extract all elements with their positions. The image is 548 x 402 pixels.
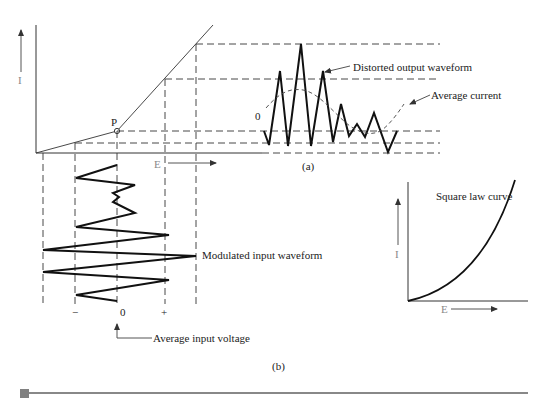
leader-arrow-icon — [325, 66, 350, 72]
plus-label: + — [161, 306, 167, 318]
panel-a: I P E 0 Distorted output waveform Averag… — [18, 25, 501, 304]
leader-arrow-icon — [410, 95, 430, 104]
characteristic-curve — [36, 25, 213, 153]
average-current-label: Average current — [431, 89, 501, 101]
y-axis-label: I — [18, 74, 22, 86]
square-law-inset: I Square law curve E — [395, 180, 528, 315]
modulated-input-waveform — [43, 165, 196, 301]
figure-canvas: I P E 0 Distorted output waveform Averag… — [0, 0, 548, 402]
x-axis-label: E — [154, 158, 161, 170]
footer-square — [20, 389, 29, 398]
panel-b-caption: (b) — [272, 360, 285, 373]
average-input-label: Average input voltage — [153, 332, 250, 344]
average-input-arrow-icon — [117, 324, 152, 338]
panel-b: Modulated input waveform − 0 + Average i… — [43, 165, 323, 373]
square-law-title: Square law curve — [436, 190, 512, 202]
minus-label: − — [72, 306, 78, 318]
zero-label: 0 — [120, 306, 126, 318]
panel-a-caption: (a) — [302, 160, 315, 173]
inset-y-axis-label: I — [395, 248, 399, 260]
input-waveform-label: Modulated input waveform — [202, 249, 323, 261]
inset-x-axis-label: E — [441, 303, 448, 315]
operating-point-label: P — [111, 116, 117, 128]
output-waveform-label: Distorted output waveform — [353, 61, 473, 73]
output-zero-label: 0 — [255, 110, 261, 122]
